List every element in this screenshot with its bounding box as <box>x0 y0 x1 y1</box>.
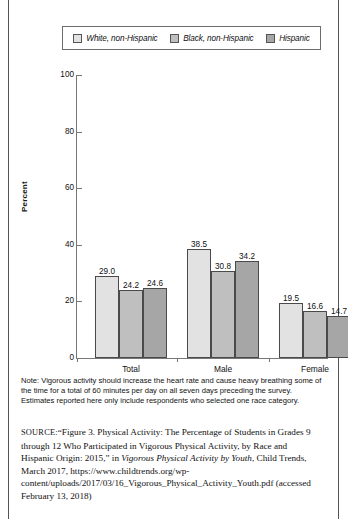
legend-item-black-non-hispanic: Black, non-Hispanic <box>170 34 253 43</box>
bar-value-label: 24.2 <box>123 281 139 290</box>
x-tick-mark-total <box>77 358 78 362</box>
bar-value-label: 34.2 <box>239 252 255 261</box>
bar-female-black[interactable]: 16.6 <box>303 311 327 358</box>
bars-layer: 29.0 24.2 24.6 38.5 30.8 <box>77 75 328 358</box>
plot-area: Percent 100 80 60 40 20 <box>14 62 334 372</box>
y-tick-label: 20 <box>65 296 74 305</box>
y-tick-label: 40 <box>65 240 74 249</box>
bar-total-black[interactable]: 24.2 <box>119 290 143 359</box>
bar-value-label: 38.5 <box>191 240 207 249</box>
y-tick-0: 0 <box>40 358 82 359</box>
y-tick-label: 60 <box>65 183 74 192</box>
x-tick-label-total: Total <box>122 364 140 374</box>
bar-male-hispanic[interactable]: 34.2 <box>235 261 259 358</box>
source-label: SOURCE: <box>21 428 58 437</box>
legend-swatch-icon <box>266 34 275 43</box>
bar-female-hispanic[interactable]: 14.7 <box>327 316 348 358</box>
y-tick-80: 80 <box>40 132 82 133</box>
page-rule-left <box>8 0 9 519</box>
y-tick-label: 80 <box>65 127 74 136</box>
x-tick-label-male: Male <box>214 364 232 374</box>
chart-legend: White, non-Hispanic Black, non-Hispanic … <box>62 26 321 50</box>
legend-label: Black, non-Hispanic <box>183 34 253 43</box>
y-axis-title: Percent <box>20 181 29 212</box>
bar-total-white[interactable]: 29.0 <box>95 276 119 358</box>
y-tick-label: 100 <box>60 70 74 79</box>
bar-group-total: 29.0 24.2 24.6 <box>95 75 167 358</box>
x-axis-line <box>76 358 328 359</box>
bar-value-label: 24.6 <box>147 279 163 288</box>
legend-item-hispanic: Hispanic <box>266 34 310 43</box>
figure-container: White, non-Hispanic Black, non-Hispanic … <box>14 0 334 519</box>
bar-value-label: 19.5 <box>283 294 299 303</box>
x-tick-label-female: Female <box>301 364 329 374</box>
y-tick-label: 0 <box>69 353 74 362</box>
source-italic-title: Vigorous Physical Activity by Youth <box>121 453 252 463</box>
x-tick-mark-male <box>177 358 178 362</box>
legend-label: White, non-Hispanic <box>86 34 157 43</box>
bar-male-white[interactable]: 38.5 <box>187 249 211 358</box>
legend-label: Hispanic <box>279 34 310 43</box>
bar-value-label: 30.8 <box>215 262 231 271</box>
bar-group-female: 19.5 16.6 14.7 <box>279 75 348 358</box>
axis-area: 100 80 60 40 20 0 <box>40 70 328 360</box>
bar-value-label: 29.0 <box>99 267 115 276</box>
chart-note: Note: Vigorous activity should increase … <box>21 376 325 407</box>
legend-swatch-icon <box>170 34 179 43</box>
legend-swatch-icon <box>73 34 82 43</box>
y-tick-60: 60 <box>40 188 82 189</box>
bar-value-label: 16.6 <box>307 302 323 311</box>
bar-female-white[interactable]: 19.5 <box>279 303 303 358</box>
bar-group-male: 38.5 30.8 34.2 <box>187 75 259 358</box>
bar-value-label: 14.7 <box>331 307 347 316</box>
bar-total-hispanic[interactable]: 24.6 <box>143 288 167 358</box>
chart-source: SOURCE:“Figure 3. Physical Activity: The… <box>21 426 321 503</box>
x-tick-mark-female <box>269 358 270 362</box>
y-tick-40: 40 <box>40 245 82 246</box>
bar-male-black[interactable]: 30.8 <box>211 271 235 358</box>
y-tick-20: 20 <box>40 301 82 302</box>
legend-item-white-non-hispanic: White, non-Hispanic <box>73 34 157 43</box>
y-tick-100: 100 <box>40 75 82 76</box>
